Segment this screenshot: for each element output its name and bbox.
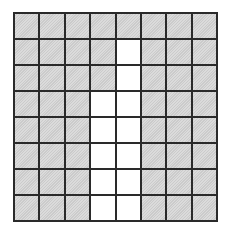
shaded-cell	[64, 194, 89, 220]
empty-cell	[115, 168, 140, 194]
empty-cell	[89, 116, 114, 142]
shaded-cell	[64, 64, 89, 90]
shaded-cell	[64, 142, 89, 168]
shaded-cell	[38, 64, 63, 90]
shaded-cell	[191, 38, 216, 64]
shaded-cell	[165, 194, 190, 220]
empty-cell	[115, 38, 140, 64]
shaded-cell	[191, 116, 216, 142]
shaded-cell	[13, 194, 38, 220]
shaded-cell	[140, 142, 165, 168]
shaded-cell	[191, 12, 216, 38]
shaded-cell	[165, 116, 190, 142]
shaded-cell	[38, 142, 63, 168]
shaded-cell	[38, 168, 63, 194]
shaded-cell	[191, 194, 216, 220]
shaded-cell	[38, 194, 63, 220]
shaded-cell	[13, 168, 38, 194]
empty-cell	[115, 194, 140, 220]
shaded-cell	[89, 12, 114, 38]
shaded-cell	[165, 38, 190, 64]
shaded-cell	[140, 194, 165, 220]
empty-cell	[89, 90, 114, 116]
shaded-cell	[13, 64, 38, 90]
shaded-cell	[165, 12, 190, 38]
shaded-cell	[165, 168, 190, 194]
shaded-cell	[38, 38, 63, 64]
shaded-cell	[89, 38, 114, 64]
shaded-cell	[191, 168, 216, 194]
shaded-cell	[140, 12, 165, 38]
shaded-cell	[13, 90, 38, 116]
shaded-cell	[38, 116, 63, 142]
shaded-cell	[13, 116, 38, 142]
shaded-cell	[13, 38, 38, 64]
shaded-cell	[165, 90, 190, 116]
empty-cell	[89, 142, 114, 168]
shaded-cell	[89, 64, 114, 90]
shaded-cell	[64, 116, 89, 142]
empty-cell	[89, 194, 114, 220]
empty-cell	[115, 64, 140, 90]
empty-cell	[115, 90, 140, 116]
shaded-cell	[64, 168, 89, 194]
shaded-cell	[191, 90, 216, 116]
shaded-cell	[140, 38, 165, 64]
shaded-cell	[140, 64, 165, 90]
shaded-cell	[140, 116, 165, 142]
shaded-cell	[140, 90, 165, 116]
shaded-cell	[165, 64, 190, 90]
shaded-cell	[38, 12, 63, 38]
shaded-cell	[191, 142, 216, 168]
shaded-cell	[64, 38, 89, 64]
shaded-cell	[165, 142, 190, 168]
shaded-cell	[115, 12, 140, 38]
shaded-cell	[140, 168, 165, 194]
empty-cell	[115, 142, 140, 168]
shaded-cell	[191, 64, 216, 90]
shaded-grid	[13, 12, 218, 222]
shaded-cell	[38, 90, 63, 116]
shaded-cell	[64, 90, 89, 116]
shaded-cell	[64, 12, 89, 38]
empty-cell	[89, 168, 114, 194]
empty-cell	[115, 116, 140, 142]
shaded-cell	[13, 142, 38, 168]
shaded-cell	[13, 12, 38, 38]
